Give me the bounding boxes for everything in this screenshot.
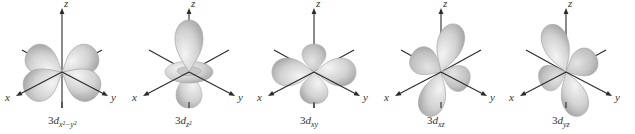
z-axis-label: z bbox=[190, 0, 196, 9]
orbital-caption-dyz: 3dyz bbox=[552, 114, 571, 129]
z-axis-label: z bbox=[567, 0, 573, 9]
orbital-caption-dxz: 3dxz bbox=[427, 114, 446, 129]
orbital-panel-dxz: zxy3dxz bbox=[383, 0, 495, 129]
y-axis-label: y bbox=[362, 91, 368, 103]
x-arrow-icon bbox=[394, 91, 402, 98]
y-arrow-icon bbox=[606, 91, 614, 98]
x-axis-label: x bbox=[4, 91, 10, 103]
y-arrow-icon bbox=[229, 91, 237, 98]
z-axis-label: z bbox=[442, 0, 448, 9]
x-arrow-icon bbox=[267, 91, 275, 98]
y-arrow-icon bbox=[102, 91, 110, 98]
orbital-panel-dyz: zxy3dyz bbox=[508, 0, 620, 129]
d-orbitals-diagram: zxy3dx²−y²zxy3dz²zxy3dxyzxy3dxzzxy3dyz bbox=[0, 0, 635, 134]
z-axis-label: z bbox=[63, 0, 69, 9]
y-arrow-icon bbox=[481, 91, 489, 98]
orbital-lobes-dyz bbox=[535, 21, 602, 120]
orbital-panel-dx2-y2: zxy3dx²−y² bbox=[4, 0, 116, 129]
front-axes: zxy bbox=[4, 0, 116, 108]
orbital-panel-dz2: zxy3dz² bbox=[131, 0, 243, 129]
x-axis-label: x bbox=[256, 91, 262, 103]
x-axis-label: x bbox=[383, 91, 389, 103]
x-arrow-icon bbox=[142, 91, 150, 98]
orbital-lobes-dz2 bbox=[165, 20, 213, 108]
orbital-panel-dxy: zxy3dxy bbox=[256, 0, 368, 129]
orbital-caption-dxy: 3dxy bbox=[300, 114, 319, 129]
x-arrow-icon bbox=[15, 91, 23, 98]
orbital-lobes-dxz bbox=[405, 20, 474, 119]
y-axis-label: y bbox=[110, 91, 116, 103]
x-arrow-icon bbox=[519, 91, 527, 98]
y-axis-label: y bbox=[614, 91, 620, 103]
y-arrow-icon bbox=[354, 91, 362, 98]
orbital-caption-dz2: 3dz² bbox=[175, 114, 192, 129]
x-axis-label: x bbox=[131, 91, 137, 103]
z-axis-label: z bbox=[315, 0, 321, 9]
y-axis-label: y bbox=[489, 91, 495, 103]
x-axis-label: x bbox=[508, 91, 514, 103]
y-axis-label: y bbox=[237, 91, 243, 103]
orbital-caption-dx2-y2: 3dx²−y² bbox=[48, 114, 77, 129]
orbital-lobes-dxy bbox=[272, 44, 356, 104]
